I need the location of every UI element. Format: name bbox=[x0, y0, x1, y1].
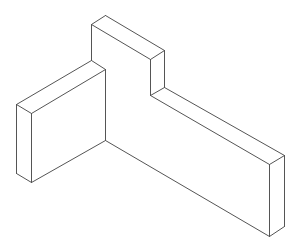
edge-tall-top-front bbox=[92, 25, 151, 60]
edge-long-bottom-front bbox=[106, 141, 270, 237]
edge-left-bottom-left bbox=[17, 174, 32, 183]
edge-long-top-front bbox=[151, 96, 270, 165]
edge-left-top-front bbox=[32, 70, 106, 114]
edge-left-top-right bbox=[92, 61, 106, 70]
edge-group bbox=[17, 16, 285, 237]
drawing-canvas bbox=[0, 0, 300, 246]
edge-left-bottom-front bbox=[32, 141, 106, 183]
edge-end-top bbox=[270, 156, 285, 165]
edge-end-bottom bbox=[270, 227, 285, 237]
edge-left-top-back bbox=[17, 61, 92, 105]
isometric-block-drawing bbox=[0, 0, 300, 246]
edge-tall-top-left bbox=[92, 16, 106, 25]
edge-tall-top-right bbox=[151, 51, 165, 60]
edge-long-top-back bbox=[165, 88, 285, 156]
edge-tall-top-back bbox=[106, 16, 165, 51]
edge-step-right bbox=[151, 88, 165, 96]
edge-left-top-left bbox=[17, 105, 32, 114]
